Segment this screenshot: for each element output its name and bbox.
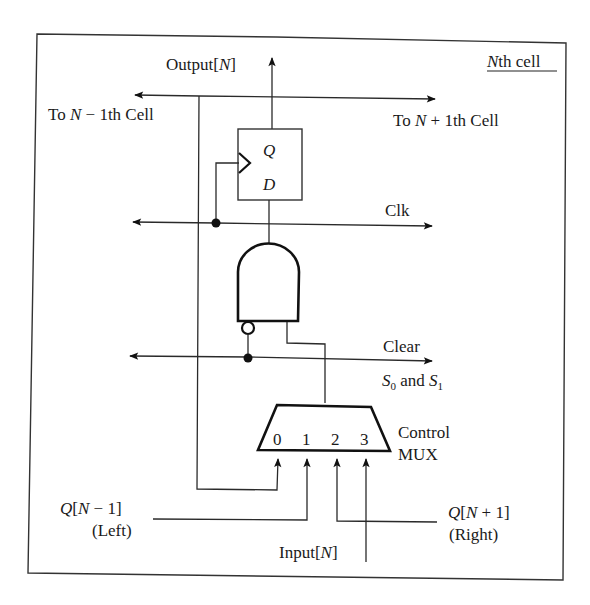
svg-text:D: D — [262, 175, 276, 194]
mux-label-control: Control — [398, 423, 450, 442]
clk-junction — [212, 219, 221, 228]
clear-label: Clear — [383, 337, 420, 356]
output-label: Output[N] — [166, 55, 236, 74]
clock-triangle-icon — [239, 153, 250, 173]
svg-text:Nth cell: Nth cell — [486, 52, 541, 71]
to-prev-cell-label: To N − 1th Cell — [48, 105, 154, 124]
mux-label-mux: MUX — [398, 445, 438, 464]
right-input-sublabel: (Right) — [449, 525, 498, 544]
to-next-cell-wire — [199, 96, 435, 99]
shift-register-cell-diagram: Nth cell Output[N] To N − 1th Cell To N … — [0, 0, 590, 605]
input-n-label: Input[N] — [279, 543, 338, 562]
svg-text:Q: Q — [263, 141, 275, 160]
mux-input-1-label: 1 — [302, 430, 311, 449]
left-input-label: Q[N − 1] — [60, 499, 122, 518]
left-input-sublabel: (Left) — [92, 521, 132, 540]
clear-wire-left — [130, 356, 248, 357]
and-gate — [238, 244, 299, 321]
inverter-bubble-icon — [242, 322, 254, 334]
right-input-label: Q[N + 1] — [448, 503, 510, 522]
right-input-wire — [337, 459, 437, 522]
to-next-cell-label: To N + 1th Cell — [393, 111, 499, 130]
cell-title: Nth cell — [486, 52, 557, 71]
clk-label: Clk — [385, 201, 410, 220]
mux-input-0-label: 0 — [273, 430, 282, 449]
mux-to-and-wire — [287, 322, 325, 403]
mux-input-3-label: 3 — [360, 430, 369, 449]
to-prev-cell-wire — [135, 95, 199, 96]
clear-junction — [244, 354, 253, 363]
d-flip-flop: Q D — [238, 129, 302, 200]
mux-input-2-label: 2 — [331, 430, 340, 449]
clk-wire-right — [216, 223, 432, 226]
select-label: S0 and S1 — [382, 371, 443, 392]
clk-to-ff-wire — [216, 163, 239, 223]
clk-wire-left — [133, 222, 216, 223]
clear-wire-right — [248, 357, 432, 361]
